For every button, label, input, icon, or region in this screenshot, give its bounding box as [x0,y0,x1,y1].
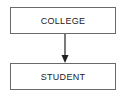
student-node: STUDENT [10,63,116,90]
student-label: STUDENT [41,72,86,82]
